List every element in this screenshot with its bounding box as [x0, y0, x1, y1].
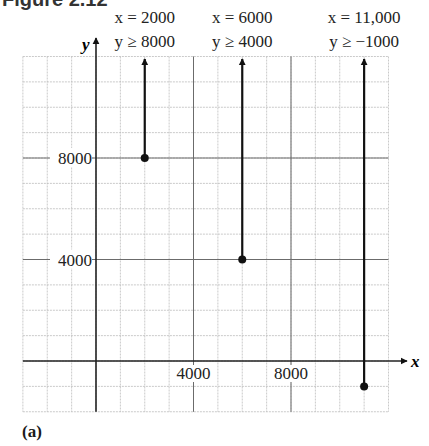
ray-labels: x = 2000y ≥ 8000x = 6000y ≥ 4000x = 11,0…	[114, 8, 400, 51]
figure-caption: (a)	[22, 422, 42, 442]
svg-text:8000: 8000	[58, 149, 92, 168]
chart-canvas: xy 4000800080004000 x = 2000y ≥ 8000x = …	[0, 0, 429, 446]
svg-text:8000: 8000	[274, 364, 308, 383]
svg-text:4000: 4000	[58, 251, 92, 270]
svg-text:x = 11,000: x = 11,000	[328, 8, 401, 27]
svg-text:y ≥ 8000: y ≥ 8000	[115, 32, 175, 51]
svg-text:y: y	[80, 35, 90, 54]
grid	[23, 57, 389, 412]
svg-text:x = 6000: x = 6000	[212, 8, 273, 27]
svg-text:4000: 4000	[177, 364, 211, 383]
svg-text:y ≥ −1000: y ≥ −1000	[329, 32, 399, 51]
svg-text:x: x	[410, 352, 420, 371]
data-rays	[141, 59, 368, 390]
svg-text:x = 2000: x = 2000	[114, 8, 175, 27]
axes: xy	[23, 35, 420, 412]
svg-text:y ≥ 4000: y ≥ 4000	[212, 32, 272, 51]
